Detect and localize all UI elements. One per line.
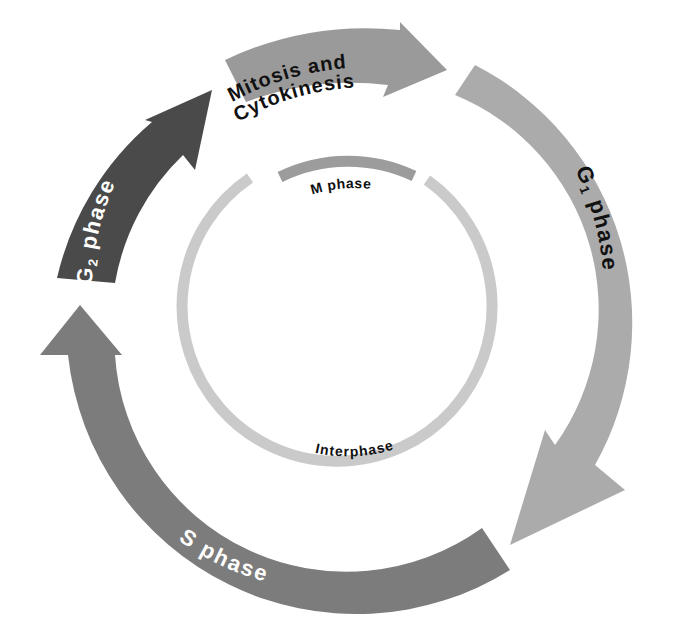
g1-phase-label: G1 phase (571, 162, 623, 273)
cell-cycle-diagram: Mitosis and Cytokinesis G1 phase S phase… (0, 0, 675, 618)
g1-phase-arrow (455, 65, 632, 545)
inner-ring (182, 161, 492, 461)
interphase-ring-right (182, 178, 492, 461)
m-phase-segment (280, 161, 414, 177)
s-phase-arrow (40, 305, 510, 614)
m-phase-label: M phase (309, 175, 373, 197)
